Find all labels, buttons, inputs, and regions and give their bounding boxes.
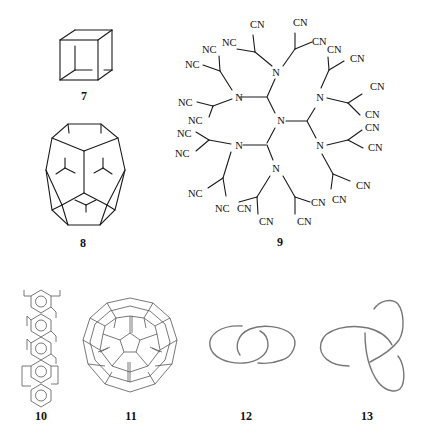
cyano-group: CN — [259, 216, 274, 227]
cyano-group-reversed: NC — [202, 44, 217, 55]
compound-9-dendrimer: N N N N N N N CN CN CN CN CN CN CN CN CN… — [175, 17, 385, 227]
atom-n: N — [272, 163, 280, 174]
compound-label-8: 8 — [80, 236, 86, 250]
compound-13-trefoil — [321, 301, 404, 391]
compound-label-9: 9 — [277, 235, 283, 249]
compound-label-13: 13 — [361, 409, 373, 423]
cyano-group: CN — [293, 17, 308, 28]
compound-label-11: 11 — [125, 409, 136, 423]
compound-11-fullerene — [83, 298, 177, 392]
cyano-group: CN — [237, 203, 252, 214]
figure-canvas: 7 8 — [0, 0, 426, 448]
compound-10-catenane — [22, 290, 60, 407]
cyano-group: CN — [327, 44, 342, 55]
compound-label-7: 7 — [81, 89, 87, 103]
compound-8-cage — [46, 124, 125, 225]
cyano-group-reversed: NC — [188, 188, 203, 199]
cyano-group: CN — [370, 81, 385, 92]
atom-n: N — [272, 67, 280, 78]
atom-n: N — [316, 140, 324, 151]
cyano-group-reversed: NC — [177, 128, 192, 139]
cyano-group: CN — [365, 109, 380, 120]
cyano-group: CN — [312, 36, 327, 47]
atom-n: N — [316, 92, 324, 103]
atom-n: N — [235, 140, 243, 151]
cyano-group-reversed: NC — [215, 203, 230, 214]
cyano-group-reversed: NC — [175, 148, 190, 159]
compound-12-hopf-link — [210, 326, 295, 363]
cyano-group-reversed: NC — [188, 115, 203, 126]
compound-label-10: 10 — [35, 409, 47, 423]
cyano-group: CN — [356, 180, 371, 191]
cyano-group: CN — [297, 216, 312, 227]
atom-n: N — [277, 115, 285, 126]
cyano-group: CN — [350, 53, 365, 64]
cyano-group: CN — [250, 19, 265, 30]
cyano-group-reversed: NC — [185, 59, 200, 70]
cyano-group-reversed: NC — [222, 37, 237, 48]
cyano-group: CN — [332, 194, 347, 205]
cyano-group-reversed: NC — [178, 97, 193, 108]
cyano-group: CN — [368, 142, 383, 153]
cyano-group: CN — [311, 197, 326, 208]
cyano-group: CN — [365, 122, 380, 133]
compound-7-cube — [60, 30, 112, 80]
compound-label-12: 12 — [240, 409, 252, 423]
atom-n: N — [235, 92, 243, 103]
